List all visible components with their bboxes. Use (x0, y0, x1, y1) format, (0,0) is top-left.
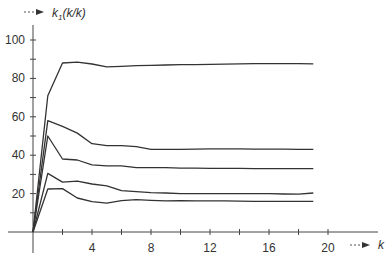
x-tick-label: 8 (148, 241, 155, 255)
series-line-curve-2 (33, 121, 313, 232)
dotted-arrow-icon (350, 242, 370, 248)
series-line-curve-3 (33, 136, 313, 232)
x-tick-label: 20 (321, 241, 335, 255)
axis-ticks: 4812162020406080100 (5, 33, 335, 255)
series-line-curve-4 (33, 173, 313, 232)
x-axis-label: k (350, 238, 385, 252)
y-tick-label: 20 (12, 187, 26, 201)
series-line-curve-5 (33, 189, 313, 232)
y-label-rest: (k/k) (62, 6, 85, 20)
axes (8, 25, 378, 253)
y-tick-label: 100 (5, 33, 25, 47)
x-tick-label: 4 (89, 241, 96, 255)
y-tick-label: 80 (12, 71, 26, 85)
y-tick-label: 40 (12, 148, 26, 162)
line-chart: 4812162020406080100 k1(k/k) k (0, 0, 392, 258)
data-series (33, 62, 313, 232)
series-line-curve-1 (33, 62, 313, 232)
x-label: k (378, 238, 385, 252)
x-tick-label: 16 (262, 241, 276, 255)
svg-text:k1(k/k): k1(k/k) (52, 6, 86, 22)
y-axis-label: k1(k/k) (24, 6, 86, 22)
x-tick-label: 12 (203, 241, 217, 255)
dotted-arrow-icon (24, 9, 44, 15)
y-tick-label: 60 (12, 110, 26, 124)
